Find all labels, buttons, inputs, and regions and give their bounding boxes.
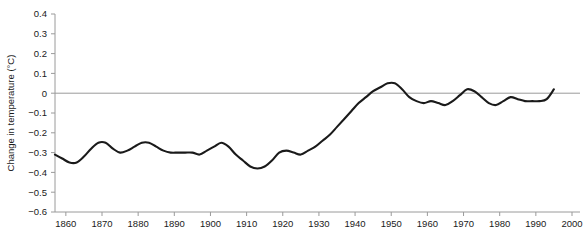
y-axis-title: Change in temperature (°C) — [5, 55, 16, 172]
x-axis-tick-label: 1980 — [489, 218, 510, 229]
y-axis-tick-label: −0.2 — [28, 127, 47, 138]
y-axis-tick-label: −0.6 — [28, 206, 47, 217]
x-axis-tick-label: 1990 — [525, 218, 546, 229]
x-axis-tick-label: 1890 — [164, 218, 185, 229]
x-axis-tick-label: 1860 — [55, 218, 76, 229]
x-axis-tick-label: 1910 — [236, 218, 257, 229]
x-axis-tick-label: 1930 — [308, 218, 329, 229]
x-axis-tick-label: 1870 — [91, 218, 112, 229]
data-series-line — [55, 83, 554, 169]
x-axis-tick-label: 1950 — [381, 218, 402, 229]
x-axis-tick-label: 1970 — [453, 218, 474, 229]
chart-plot-area: 0.40.30.20.10−0.1−0.2−0.3−0.4−0.5−0.6 18… — [0, 0, 583, 242]
y-axis-tick-label: −0.3 — [28, 147, 47, 158]
y-axis-tick-label: 0.3 — [34, 28, 47, 39]
temperature-anomaly-chart: 0.40.30.20.10−0.1−0.2−0.3−0.4−0.5−0.6 18… — [0, 0, 583, 242]
y-axis-tick-label: 0 — [42, 88, 47, 99]
series-path-global-temperature-anomaly — [55, 83, 554, 169]
x-axis-tick-label: 1880 — [128, 218, 149, 229]
y-axis-tick-label: 0.2 — [34, 48, 47, 59]
x-axis-tick-label: 1900 — [200, 218, 221, 229]
y-axis: 0.40.30.20.10−0.1−0.2−0.3−0.4−0.5−0.6 — [28, 8, 55, 217]
y-axis-tick-label: −0.1 — [28, 107, 47, 118]
x-axis-tick-label: 1960 — [417, 218, 438, 229]
y-axis-tick-label: 0.4 — [34, 8, 47, 19]
y-axis-tick-label: 0.1 — [34, 68, 47, 79]
x-axis-tick-label: 2000 — [561, 218, 582, 229]
x-axis-tick-label: 1920 — [272, 218, 293, 229]
y-axis-tick-label: −0.4 — [28, 167, 47, 178]
y-axis-title-text: Change in temperature (°C) — [5, 55, 16, 172]
x-axis: 1860187018801890190019101920193019401950… — [55, 212, 583, 229]
y-axis-tick-label: −0.5 — [28, 187, 47, 198]
x-axis-tick-label: 1940 — [345, 218, 366, 229]
